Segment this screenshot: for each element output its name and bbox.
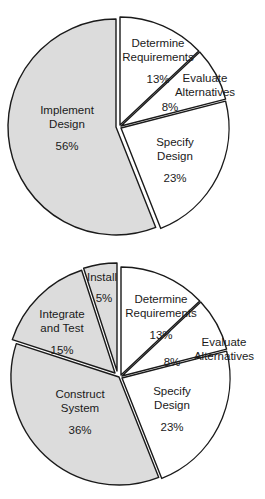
slice-label-evaluate-alternatives: Evaluate bbox=[202, 336, 247, 348]
slice-label-specify-design: Design bbox=[154, 399, 190, 411]
slice-label-evaluate-alternatives: Evaluate bbox=[183, 72, 228, 84]
pie-chart-single-phase: DetermineRequirements13%EvaluateAlternat… bbox=[8, 17, 235, 235]
slice-label-determine-requirements: Determine bbox=[134, 293, 187, 305]
slice-label-determine-requirements: Requirements bbox=[122, 51, 194, 63]
slice-label-construct-system: System bbox=[61, 402, 99, 414]
slice-label-determine-requirements: Determine bbox=[131, 37, 184, 49]
slice-label-determine-requirements: Requirements bbox=[125, 307, 197, 319]
pie-chart-multi-phase: DetermineRequirements13%EvaluateAlternat… bbox=[11, 263, 254, 485]
slice-value-integrate-and-test: 15% bbox=[50, 344, 73, 356]
slice-label-evaluate-alternatives: Alternatives bbox=[194, 350, 254, 362]
slice-label-specify-design: Design bbox=[157, 150, 193, 162]
slice-value-evaluate-alternatives: 8% bbox=[162, 101, 179, 113]
pie-charts: DetermineRequirements13%EvaluateAlternat… bbox=[0, 0, 265, 499]
slice-value-implement-design: 56% bbox=[55, 140, 78, 152]
slice-label-evaluate-alternatives: Alternatives bbox=[175, 86, 235, 98]
slice-value-construct-system: 36% bbox=[68, 424, 91, 436]
slice-value-install: 5% bbox=[96, 292, 113, 304]
slice-value-determine-requirements: 13% bbox=[149, 329, 172, 341]
slice-label-specify-design: Specify bbox=[153, 385, 191, 397]
slice-label-implement-design: Design bbox=[49, 118, 85, 130]
slice-value-determine-requirements: 13% bbox=[146, 73, 169, 85]
slice-label-construct-system: Construct bbox=[55, 388, 105, 400]
slice-value-specify-design: 23% bbox=[160, 421, 183, 433]
slice-label-integrate-and-test: and Test bbox=[40, 322, 84, 334]
slice-label-integrate-and-test: Integrate bbox=[39, 308, 84, 320]
slice-label-specify-design: Specify bbox=[156, 136, 194, 148]
slice-value-evaluate-alternatives: 8% bbox=[164, 356, 181, 368]
slice-value-specify-design: 23% bbox=[163, 172, 186, 184]
slice-label-implement-design: Implement bbox=[40, 104, 94, 116]
slice-label-install: Install bbox=[87, 271, 117, 283]
